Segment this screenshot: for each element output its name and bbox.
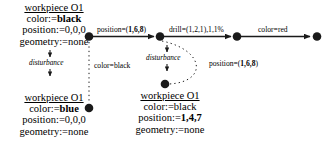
transition-label-position: position=(1,6,8) (97, 25, 146, 34)
state-position-attr: position:= (138, 112, 181, 123)
trace-node-2 (156, 32, 165, 41)
transition-label-suffix: ),1,1% (204, 25, 224, 34)
observation-label-prefix: position=( (209, 59, 240, 68)
state-block-disturbed-blue: workpiece O1 color:=blue position:=0,0,0… (4, 92, 104, 137)
state-geometry-attr: geometry:= (20, 36, 69, 47)
trace-node-4 (313, 32, 322, 41)
observation-label-position: position=(1,6,8) (209, 59, 258, 68)
state-position-value: 1,4,7 (181, 112, 202, 123)
state-position-value: 0,0,0 (65, 24, 86, 35)
disturbance-node-right (161, 80, 170, 89)
state-geometry-attr: geometry:= (136, 124, 185, 135)
state-color-value: blue (60, 103, 79, 114)
transition-label-suffix: ) (143, 25, 146, 34)
state-geometry-attr: geometry:= (20, 126, 69, 137)
state-position-line: position:=1,4,7 (120, 112, 220, 123)
state-position-line: position:=0,0,0 (4, 24, 104, 35)
trace-node-3 (233, 32, 242, 41)
state-position-attr: position:= (22, 24, 65, 35)
state-color-line: color:=blue (4, 103, 104, 114)
transition-label-value: 1,2,1 (188, 25, 203, 34)
state-geometry-line: geometry:=none (120, 124, 220, 135)
state-color-line: color:=black (120, 101, 220, 112)
transition-label-color-red: color=red (258, 25, 288, 34)
state-block-moved: workpiece O1 color:=black position:=1,4,… (120, 90, 220, 135)
state-geometry-line: geometry:=none (4, 36, 104, 47)
state-geometry-value: none (68, 36, 88, 47)
state-position-line: position:=0,0,0 (4, 114, 104, 125)
state-geometry-value: none (68, 126, 88, 137)
state-title: workpiece O1 (4, 92, 104, 103)
transition-label-prefix: color=red (258, 25, 288, 34)
observation-label-suffix: ) (255, 59, 258, 68)
transition-label-prefix: position=( (97, 25, 128, 34)
state-geometry-line: geometry:=none (4, 126, 104, 137)
observation-label-value: 1,6,8 (240, 59, 255, 68)
observation-label-color-black: color=black (94, 61, 130, 70)
state-geometry-value: none (184, 124, 204, 135)
state-position-value: 0,0,0 (65, 114, 86, 125)
transition-label-drill: drill=(1,2,1),1,1% (169, 25, 224, 34)
diagram-canvas: workpiece O1 color:=black position:=0,0,… (0, 0, 334, 150)
state-position-attr: position:= (22, 114, 65, 125)
disturbance-label-left: disturbance (29, 58, 63, 67)
observation-label-prefix: color=black (94, 61, 130, 70)
state-color-value: black (57, 13, 82, 24)
state-color-value: black (174, 101, 197, 112)
state-color-line: color:=black (4, 13, 104, 24)
state-color-attr: color:= (143, 101, 173, 112)
state-color-attr: color:= (27, 13, 57, 24)
transition-label-prefix: drill=( (169, 25, 188, 34)
state-block-initial: workpiece O1 color:=black position:=0,0,… (4, 2, 104, 47)
state-title: workpiece O1 (120, 90, 220, 101)
state-color-attr: color:= (29, 103, 59, 114)
state-title: workpiece O1 (4, 2, 104, 13)
disturbance-label-right: disturbance (146, 53, 180, 62)
transition-label-value: 1,6,8 (128, 25, 143, 34)
